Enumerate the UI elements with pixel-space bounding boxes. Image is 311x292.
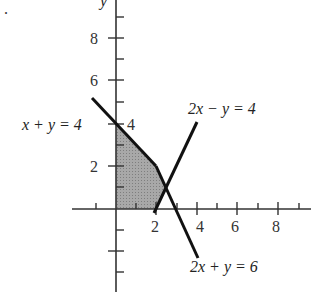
y-tick-label-2: 2	[90, 158, 98, 175]
x-tick-label-6: 6	[231, 218, 239, 235]
line-2x-minus-y-eq-4	[154, 122, 197, 213]
equation-label-2x-minus-y-eq-4: 2x − y = 4	[188, 100, 256, 118]
equation-label-x-plus-y-eq-4: x + y = 4	[21, 116, 82, 134]
corner-mark: .	[4, 0, 8, 17]
equation-label-2x-plus-y-eq-6: 2x + y = 6	[190, 258, 258, 276]
x-tick-label-8: 8	[272, 218, 280, 235]
y-tick-label-6: 6	[90, 72, 98, 89]
x-tick-label-4: 4	[196, 218, 204, 235]
y-intercept-label: 4	[127, 116, 135, 133]
x-tick-label-2: 2	[151, 218, 159, 235]
y-tick-label-8: 8	[90, 30, 98, 47]
y-axis-label: y	[98, 0, 108, 10]
line-2x-plus-y-eq-6	[156, 166, 198, 258]
linear-programming-graph: . y 8 6 2 4 2 4 6 8 x + y = 4 2x − y = 4…	[0, 0, 311, 292]
